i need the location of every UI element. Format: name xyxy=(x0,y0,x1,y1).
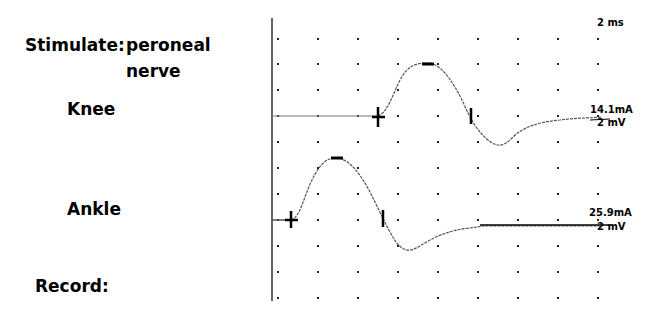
grid-dot xyxy=(477,167,479,169)
grid-dot xyxy=(397,219,399,221)
grid-dot xyxy=(517,167,519,169)
grid-dot xyxy=(517,271,519,273)
grid-dot xyxy=(557,63,559,65)
grid-dot xyxy=(517,219,519,221)
time-scale-label: 2 ms xyxy=(597,17,624,28)
grid-dot xyxy=(277,245,279,247)
grid-dot xyxy=(597,271,599,273)
grid-dot xyxy=(317,89,319,91)
grid-dot xyxy=(557,193,559,195)
grid-dot xyxy=(357,219,359,221)
waveform-plot xyxy=(0,0,646,324)
grid-dot xyxy=(597,63,599,65)
grid-dots xyxy=(277,38,599,299)
grid-dot xyxy=(317,63,319,65)
grid-dot xyxy=(317,193,319,195)
grid-dot xyxy=(597,245,599,247)
grid-dot xyxy=(437,193,439,195)
grid-dot xyxy=(317,271,319,273)
grid-dot xyxy=(357,271,359,273)
grid-dot xyxy=(277,193,279,195)
grid-dot xyxy=(597,89,599,91)
grid-dot xyxy=(477,193,479,195)
grid-dot xyxy=(517,297,519,299)
grid-dot xyxy=(437,38,439,40)
grid-dot xyxy=(557,38,559,40)
grid-dot xyxy=(517,89,519,91)
grid-dot xyxy=(317,141,319,143)
grid-dot xyxy=(437,141,439,143)
grid-dot xyxy=(597,193,599,195)
grid-dot xyxy=(397,167,399,169)
grid-dot xyxy=(517,193,519,195)
ankle-stimulus-label: 25.9mA xyxy=(589,207,632,218)
ankle-onset-marker xyxy=(285,211,298,228)
grid-dot xyxy=(517,38,519,40)
grid-dot xyxy=(397,141,399,143)
grid-dot xyxy=(477,297,479,299)
grid-dot xyxy=(357,297,359,299)
grid-dot xyxy=(557,115,559,117)
grid-dot xyxy=(277,271,279,273)
grid-dot xyxy=(477,219,479,221)
grid-dot xyxy=(397,63,399,65)
grid-dot xyxy=(277,297,279,299)
grid-dot xyxy=(477,141,479,143)
grid-dot xyxy=(517,115,519,117)
grid-dot xyxy=(397,271,399,273)
grid-dot xyxy=(437,245,439,247)
grid-dot xyxy=(277,141,279,143)
knee-onset-marker xyxy=(372,107,385,127)
grid-dot xyxy=(437,167,439,169)
ankle-trace xyxy=(291,158,600,250)
grid-dot xyxy=(517,141,519,143)
grid-dot xyxy=(277,63,279,65)
grid-dot xyxy=(397,115,399,117)
grid-dot xyxy=(317,38,319,40)
grid-dot xyxy=(397,297,399,299)
grid-dot xyxy=(357,141,359,143)
grid-dot xyxy=(437,63,439,65)
grid-dot xyxy=(597,38,599,40)
grid-dot xyxy=(277,89,279,91)
ankle-gain-label: 2 mV xyxy=(597,221,626,232)
grid-dot xyxy=(477,63,479,65)
grid-dot xyxy=(477,271,479,273)
grid-dot xyxy=(397,89,399,91)
knee-trace xyxy=(378,63,602,145)
grid-dot xyxy=(437,297,439,299)
grid-dot xyxy=(517,245,519,247)
grid-dot xyxy=(557,141,559,143)
grid-dot xyxy=(357,167,359,169)
grid-dot xyxy=(397,193,399,195)
grid-dot xyxy=(517,63,519,65)
grid-dot xyxy=(477,89,479,91)
grid-dot xyxy=(557,245,559,247)
grid-dot xyxy=(357,63,359,65)
grid-dot xyxy=(597,297,599,299)
grid-dot xyxy=(277,167,279,169)
grid-dot xyxy=(397,245,399,247)
knee-gain-label: 2 mV xyxy=(597,117,626,128)
grid-dot xyxy=(477,245,479,247)
grid-dot xyxy=(437,115,439,117)
grid-dot xyxy=(477,115,479,117)
grid-dot xyxy=(437,89,439,91)
grid-dot xyxy=(397,38,399,40)
grid-dot xyxy=(317,245,319,247)
grid-dot xyxy=(597,141,599,143)
grid-dot xyxy=(477,38,479,40)
grid-dot xyxy=(357,193,359,195)
grid-dot xyxy=(557,297,559,299)
knee-stimulus-label: 14.1mA xyxy=(590,104,633,115)
grid-dot xyxy=(277,38,279,40)
grid-dot xyxy=(437,219,439,221)
grid-dot xyxy=(557,271,559,273)
grid-dot xyxy=(357,245,359,247)
grid-dot xyxy=(597,167,599,169)
grid-dot xyxy=(317,219,319,221)
grid-dot xyxy=(437,271,439,273)
grid-dot xyxy=(357,38,359,40)
grid-dot xyxy=(557,167,559,169)
grid-dot xyxy=(357,89,359,91)
